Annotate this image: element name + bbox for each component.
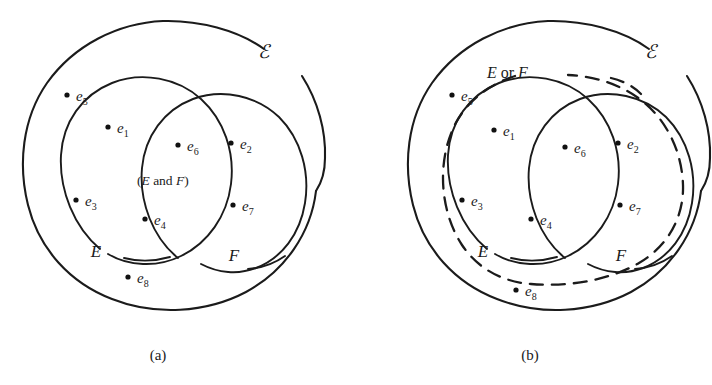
point-label: e2 [240,136,252,155]
universe-label-a: ℰ [258,41,272,62]
point-label: e2 [627,136,639,155]
point-dot [617,202,622,207]
point-dot [528,216,533,221]
sample-point-e3-a: e3 [73,193,96,212]
intersection-label-a: (E and F) [137,173,189,188]
sample-point-e8-b: e8 [513,283,536,302]
universe-boundary-a [23,21,316,310]
set-e-boundary-b-tail [511,257,557,261]
sample-point-e3-b: e3 [459,193,482,212]
point-dot [562,144,567,149]
point-label: e6 [187,138,199,157]
point-dot [230,202,235,207]
point-label: e6 [574,140,586,159]
sample-point-e6-b: e6 [562,140,585,159]
sample-points-b: e5 e1 e6 e2 e3 e7 [449,88,640,302]
point-label: e4 [154,212,166,231]
point-dot [615,140,620,145]
set-e-label-b: E [477,242,489,261]
point-dot [73,197,78,202]
point-label: e8 [525,283,537,302]
figure-canvas: ℰ E F (E and F) e5 e1 e6 e2 [0,0,712,385]
point-dot [513,287,518,292]
union-label-b: E or F [486,64,528,81]
panel-caption-b: (b) [521,347,539,364]
universe-boundary-b-arc2 [687,76,710,191]
point-dot [228,140,233,145]
point-dot [64,92,69,97]
point-label: e3 [85,193,97,212]
set-e-label-a: E [90,242,102,261]
point-label: e8 [137,270,149,289]
sample-point-e5-a: e5 [64,88,87,107]
set-f-boundary-b [529,94,694,272]
point-dot [449,92,454,97]
sample-point-e6-a: e6 [175,138,198,157]
point-label: e5 [461,88,473,107]
sample-point-e1-b: e1 [491,123,514,142]
sample-point-e7-a: e7 [230,198,253,217]
universe-label-b: ℰ [645,41,659,62]
universe-boundary-b [408,21,701,310]
point-dot [125,274,130,279]
point-dot [142,216,147,221]
set-f-label-a: F [228,246,240,265]
set-e-boundary-b [448,77,619,264]
sample-point-e2-a: e2 [228,136,251,155]
point-label: e1 [503,123,515,142]
point-dot [105,124,110,129]
sample-point-e7-b: e7 [617,198,640,217]
point-label: e1 [117,120,129,139]
set-f-label-b: F [615,246,627,265]
point-dot [175,142,180,147]
point-label: e3 [471,193,483,212]
point-dot [459,197,464,202]
panel-caption-a: (a) [150,347,167,364]
point-label: e5 [76,88,88,107]
point-label: e7 [629,198,641,217]
panel-b: ℰ E F E or F e5 e1 e6 e2 [408,21,710,364]
sample-point-e5-b: e5 [449,88,472,107]
sample-point-e8-a: e8 [125,270,148,289]
sample-point-e2-b: e2 [615,136,638,155]
set-e-boundary-a-tail [124,257,170,261]
sample-point-e1-a: e1 [105,120,128,139]
point-dot [491,127,496,132]
panel-a: ℰ E F (E and F) e5 e1 e6 e2 [23,21,325,364]
point-label: e7 [242,198,254,217]
